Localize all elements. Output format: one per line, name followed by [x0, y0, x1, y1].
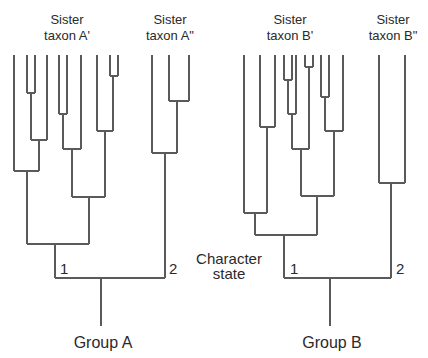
cladogram-figure: Sister taxon A' Sister taxon A" Sister t… — [0, 0, 428, 358]
character-state-label: Character state — [196, 250, 262, 282]
tree-group-b — [244, 55, 405, 326]
label-line: taxon B" — [369, 28, 418, 43]
label-line: Sister — [153, 12, 187, 27]
sister-taxon-a-double-prime-label: Sister taxon A" — [146, 12, 194, 43]
label-line: taxon B' — [267, 28, 314, 43]
tree-canvas: Sister taxon A' Sister taxon A" Sister t… — [0, 0, 428, 358]
character-state-a2: 2 — [169, 260, 177, 277]
character-state-b2: 2 — [396, 260, 404, 277]
label-line: Sister — [50, 12, 84, 27]
character-state-a1: 1 — [60, 260, 68, 277]
group-b-label: Group B — [302, 334, 362, 351]
sister-taxon-b-double-prime-label: Sister taxon B" — [369, 12, 418, 43]
sister-taxon-b-prime-label: Sister taxon B' — [267, 12, 314, 43]
label-line: Sister — [376, 12, 410, 27]
label-line: state — [213, 265, 246, 282]
label-line: taxon A' — [44, 28, 90, 43]
sister-taxon-a-prime-label: Sister taxon A' — [44, 12, 90, 43]
character-state-b1: 1 — [290, 260, 298, 277]
tree-group-a — [14, 55, 189, 326]
label-line: taxon A" — [146, 28, 194, 43]
label-line: Sister — [273, 12, 307, 27]
group-a-label: Group A — [74, 334, 133, 351]
